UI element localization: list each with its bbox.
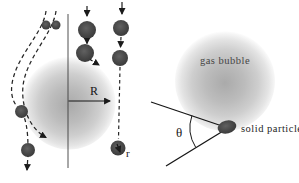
streamline-particle xyxy=(42,21,51,30)
settling-particle xyxy=(76,44,94,62)
gas-bubble-right xyxy=(175,31,275,131)
gas-bubble-label: gas bubble xyxy=(200,55,250,66)
gas-bubble-left xyxy=(23,57,116,150)
settling-particle xyxy=(78,21,96,39)
streamline-particle xyxy=(52,21,61,30)
dashed-down-arrow xyxy=(121,37,122,47)
settling-particle xyxy=(113,20,129,36)
streamline-particle xyxy=(21,143,35,157)
particle-radius-label: r xyxy=(126,147,130,159)
solid-particle-label: solid particle xyxy=(241,123,299,134)
bubble-flow-panel: R r xyxy=(12,2,130,170)
grazing-trajectory-column: r xyxy=(111,2,131,159)
collision-trajectory-column xyxy=(76,6,99,65)
bubble-radius-label: R xyxy=(90,84,98,98)
streamline-particle xyxy=(15,105,28,118)
dashed-trajectory-line xyxy=(119,67,121,139)
figure-canvas: R r gas bubble θ xyxy=(0,0,299,183)
contact-angle-label: θ xyxy=(176,125,182,140)
settling-particle xyxy=(112,50,128,66)
contact-angle-panel: gas bubble θ solid particle xyxy=(151,31,299,166)
